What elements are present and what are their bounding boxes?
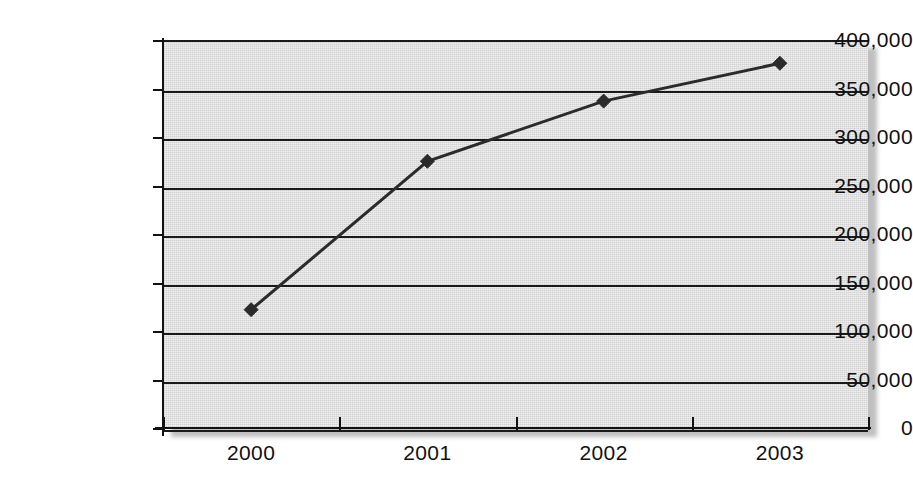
y-tick-mark — [153, 137, 164, 139]
gridline — [163, 188, 868, 190]
y-tick-label: 50,000 — [765, 368, 913, 392]
y-axis-line — [162, 38, 164, 436]
x-tick-label: 2002 — [579, 441, 627, 465]
y-tick-label: 350,000 — [765, 77, 913, 101]
x-tick-mark — [868, 417, 870, 430]
y-tick-mark — [153, 331, 164, 333]
line-chart-figure: 050,000100,000150,000200,000250,000300,0… — [0, 0, 913, 504]
gridline — [163, 382, 868, 384]
chart-title — [72, 0, 672, 6]
y-tick-mark — [153, 89, 164, 91]
x-tick-label: 2003 — [756, 441, 804, 465]
x-tick-mark — [692, 417, 694, 430]
x-tick-label: 2001 — [403, 441, 451, 465]
y-tick-mark — [153, 380, 164, 382]
y-tick-label: 400,000 — [765, 28, 913, 52]
gridline — [163, 285, 868, 287]
plot-area — [163, 40, 868, 428]
gridline — [163, 139, 868, 141]
x-axis-line — [155, 427, 871, 429]
y-tick-label: 150,000 — [765, 271, 913, 295]
y-tick-mark — [153, 234, 164, 236]
y-tick-label: 0 — [765, 416, 913, 440]
y-tick-label: 100,000 — [765, 319, 913, 343]
y-tick-mark — [153, 186, 164, 188]
x-tick-mark — [339, 417, 341, 430]
y-tick-mark — [153, 40, 164, 42]
gridline — [163, 333, 868, 335]
y-tick-label: 250,000 — [765, 174, 913, 198]
gridline — [163, 430, 868, 432]
gridline — [163, 236, 868, 238]
y-tick-label: 300,000 — [765, 125, 913, 149]
y-tick-label: 200,000 — [765, 222, 913, 246]
x-tick-mark — [163, 417, 165, 430]
gridline — [163, 91, 868, 93]
x-tick-label: 2000 — [227, 441, 275, 465]
y-tick-mark — [153, 283, 164, 285]
x-tick-mark — [516, 417, 518, 430]
